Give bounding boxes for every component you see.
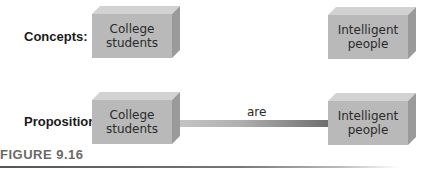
node-text-line: College [106, 22, 158, 36]
proposition-row-label: Proposition: [24, 114, 101, 129]
node-text-line: College [106, 108, 158, 122]
node-text-line: students [106, 36, 158, 50]
box-top-face [92, 6, 180, 14]
box-side-face [172, 92, 180, 144]
proposition-node-college-students: College students [92, 92, 180, 144]
node-text-line: Intelligent [338, 23, 399, 37]
box-side-face [408, 93, 416, 145]
box-front-face: Intelligent people [328, 101, 408, 145]
box-front-face: Intelligent people [328, 15, 408, 59]
box-top-face [92, 92, 180, 100]
box-top-face [328, 93, 416, 101]
node-text-line: people [338, 123, 399, 137]
box-side-face [172, 6, 180, 58]
concepts-row-label: Concepts: [24, 29, 88, 44]
concept-node-intelligent-people: Intelligent people [328, 7, 416, 59]
link-label: are [247, 105, 266, 119]
box-front-face: College students [92, 14, 172, 58]
box-front-face: College students [92, 100, 172, 144]
proposition-link-bar [180, 120, 328, 127]
caption-rule [0, 166, 400, 168]
figure-caption: FIGURE 9.16 [0, 147, 84, 162]
box-top-face [328, 7, 416, 15]
node-text-line: Intelligent [338, 109, 399, 123]
concept-node-college-students: College students [92, 6, 180, 58]
node-text-line: people [338, 37, 399, 51]
box-side-face [408, 7, 416, 59]
node-text-line: students [106, 122, 158, 136]
proposition-node-intelligent-people: Intelligent people [328, 93, 416, 145]
